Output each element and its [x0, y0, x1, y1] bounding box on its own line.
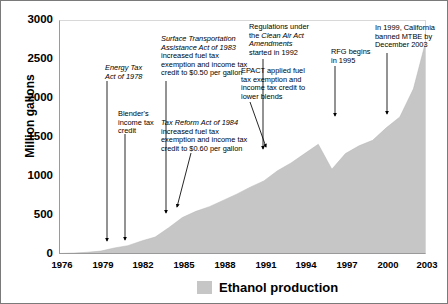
annotation-tax-reform-act: Tax Reform Act of 1984 increased fuel ta…	[161, 119, 269, 153]
annotation-epact: EPACT applied fuel tax exemption and inc…	[241, 67, 315, 101]
y-tick-1000: 1000	[1, 170, 53, 181]
annotation-line: credit to $0.60 per gallon	[161, 145, 269, 154]
y-tick-2500: 2500	[1, 53, 53, 64]
x-tick-1982: 1982	[123, 260, 163, 270]
legend-swatch-ethanol-production	[197, 281, 212, 294]
annotation-line: December 2003	[375, 41, 445, 50]
x-tick-1994: 1994	[286, 260, 326, 270]
x-tick-1997: 1997	[327, 260, 367, 270]
annotation-california-mtbe-ban: In 1999, California banned MTBE by Decem…	[375, 24, 445, 50]
y-tick-1500: 1500	[1, 131, 53, 142]
y-tick-500: 500	[1, 209, 53, 220]
annotation-clean-air-act-amendments: Regulations under the Clean Air Act Amen…	[249, 23, 327, 57]
annotation-energy-tax-act: Energy Tax Act of 1978	[105, 64, 163, 81]
x-tick-1976: 1976	[42, 260, 82, 270]
x-tick-1988: 1988	[205, 260, 245, 270]
annotation-line: started in 1992	[249, 49, 327, 58]
annotation-rfg-begins: RFG begins in 1995	[331, 48, 387, 65]
x-tick-1985: 1985	[164, 260, 204, 270]
legend: Ethanol production	[197, 280, 338, 295]
legend-label-ethanol-production: Ethanol production	[219, 280, 338, 295]
x-tick-2000: 2000	[368, 260, 408, 270]
x-tick-1991: 1991	[246, 260, 286, 270]
y-tick-3000: 3000	[1, 14, 53, 25]
x-tick-2003: 2003	[407, 260, 447, 270]
y-tick-2000: 2000	[1, 92, 53, 103]
chart-container: Million gallons 3000 2500 2000 1500 1000…	[0, 0, 448, 304]
x-tick-1979: 1979	[83, 260, 123, 270]
y-tick-0: 0	[1, 248, 53, 259]
annotation-line: lower blends	[241, 93, 315, 102]
annotation-line: Act of 1978	[105, 73, 163, 82]
annotation-line: in 1995	[331, 57, 387, 66]
